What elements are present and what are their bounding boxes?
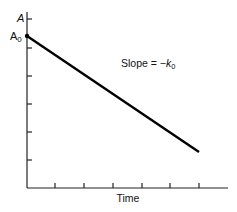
y-axis-label: A (16, 12, 24, 24)
x-axis-ticks (55, 183, 199, 188)
decay-line (27, 36, 199, 152)
x-axis-label: Time (117, 192, 140, 204)
intercept-label: A0 (10, 30, 22, 44)
zero-order-kinetics-chart: A A0 Slope = −k0 Time (0, 0, 237, 212)
slope-annotation: Slope = −k0 (121, 57, 175, 71)
intercept-point (25, 34, 29, 38)
